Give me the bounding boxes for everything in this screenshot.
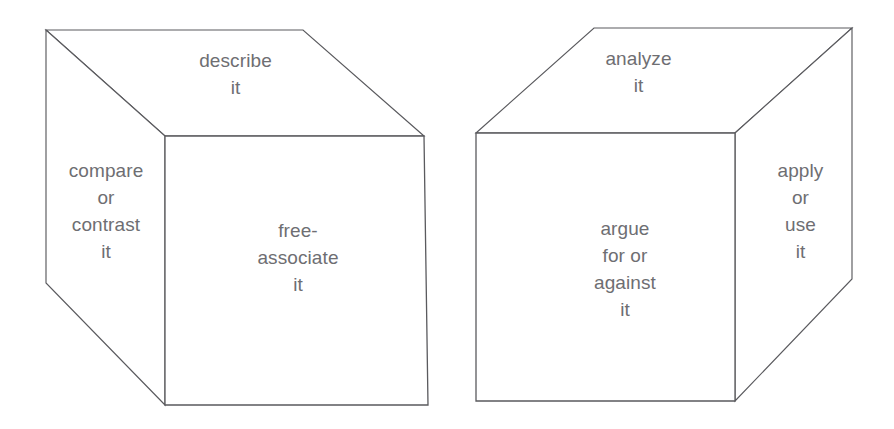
right-cube-front-face xyxy=(476,133,735,401)
right-cube xyxy=(476,28,852,401)
left-cube xyxy=(46,30,428,405)
left-cube-front-face xyxy=(165,136,428,405)
cube-diagram: describe it compare or contrast it free-… xyxy=(0,0,894,429)
cubes-line-art xyxy=(0,0,894,429)
